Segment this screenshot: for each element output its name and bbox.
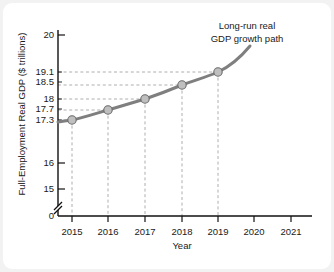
data-point-2017 bbox=[141, 95, 149, 103]
horizontal-guide-lines bbox=[58, 72, 218, 120]
y-axis-title: Full-Employment Real GDP ($ trillions) bbox=[17, 14, 27, 214]
x-tick-label-2021: 2021 bbox=[280, 227, 301, 237]
x-tick-label-2020: 2020 bbox=[243, 227, 264, 237]
x-tick-label-2018: 2018 bbox=[171, 227, 192, 237]
data-point-2019 bbox=[214, 68, 222, 76]
y-tick-label-18-5: 18.5 bbox=[26, 77, 54, 87]
annotation-leader-line bbox=[228, 44, 242, 56]
data-point-2015 bbox=[68, 116, 76, 124]
y-tick-marks bbox=[58, 35, 65, 189]
y-tick-label-0: 0 bbox=[30, 211, 54, 221]
y-tick-label-17-3: 17.3 bbox=[26, 115, 54, 125]
growth-path-annotation-line1: Long-run real bbox=[219, 20, 276, 32]
x-axis-title: Year bbox=[172, 241, 191, 251]
gdp-growth-path-line bbox=[58, 46, 250, 122]
growth-path-annotation-line2: GDP growth path bbox=[211, 33, 284, 45]
x-tick-marks bbox=[72, 216, 291, 222]
vertical-guide-lines bbox=[72, 72, 218, 216]
y-tick-label-20: 20 bbox=[30, 30, 54, 40]
x-tick-label-2015: 2015 bbox=[61, 227, 82, 237]
x-tick-label-2019: 2019 bbox=[207, 227, 228, 237]
x-tick-label-2016: 2016 bbox=[97, 227, 118, 237]
y-tick-label-17-7: 17.7 bbox=[26, 104, 54, 114]
y-tick-label-15: 15 bbox=[30, 184, 54, 194]
x-tick-label-2017: 2017 bbox=[134, 227, 155, 237]
data-point-2018 bbox=[178, 81, 186, 89]
data-point-2016 bbox=[104, 106, 112, 114]
y-tick-label-16: 16 bbox=[30, 158, 54, 168]
